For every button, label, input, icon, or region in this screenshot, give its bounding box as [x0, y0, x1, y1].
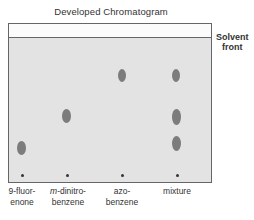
lane-label-line1: azo-	[92, 186, 152, 197]
solvent-front-label-line2: front	[216, 42, 249, 52]
solvent-front-region	[9, 24, 211, 38]
lane-label-line1: m-dinitro-	[38, 186, 98, 197]
lane-label-azobenzene: azo- benzene	[92, 186, 152, 208]
lane-label-line2: benzene	[92, 197, 152, 208]
spot-mixture-2	[172, 109, 181, 125]
spot-m-dinitrobenzene	[62, 109, 71, 123]
lane-label-m-dinitrobenzene: m-dinitro- benzene	[38, 186, 98, 208]
lane-label-line1-text: -dinitro-	[57, 186, 86, 196]
tlc-plate	[8, 23, 212, 183]
lane-label-mixture: mixture	[147, 186, 207, 197]
origin-dot-4	[176, 174, 179, 177]
lane-label-line2: benzene	[38, 197, 98, 208]
spot-9-fluorenone	[17, 141, 26, 155]
diagram-title: Developed Chromatogram	[8, 6, 214, 17]
origin-dot-3	[121, 174, 124, 177]
origin-dot-2	[66, 174, 69, 177]
solvent-front-label: Solvent front	[216, 32, 249, 52]
lane-label-line1: mixture	[147, 186, 207, 197]
origin-dot-1	[21, 174, 24, 177]
solvent-front-label-line1: Solvent	[216, 32, 249, 42]
spot-azobenzene	[118, 69, 126, 82]
spot-mixture-1	[172, 69, 180, 82]
spot-mixture-3	[172, 136, 181, 151]
